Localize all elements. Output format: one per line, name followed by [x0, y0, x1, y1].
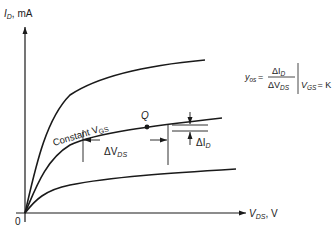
- y-axis-label: ID, mA: [4, 8, 33, 20]
- curve-middle: [25, 118, 222, 213]
- x-axis-label: VDS, V: [249, 208, 278, 220]
- svg-text:ΔID: ΔID: [272, 66, 286, 77]
- svg-text:yos: yos: [244, 72, 257, 83]
- origin-label: 0: [15, 216, 21, 227]
- constant-vgs-label: Constant VGS: [51, 121, 109, 149]
- svg-text:VGS= K: VGS= K: [301, 80, 331, 91]
- delta-id-label: ΔID: [196, 137, 211, 149]
- fet-output-characteristics-diagram: ID, mA VDS, V 0 Constant VGS Q ΔVDS ΔID …: [0, 0, 334, 231]
- curve-bottom: [25, 169, 236, 213]
- q-point: [145, 125, 150, 130]
- output-admittance-formula: yos = ΔID ΔVDS VGS= K: [244, 63, 331, 94]
- svg-text:ΔVDS: ΔVDS: [268, 80, 290, 91]
- svg-text:=: =: [258, 72, 263, 82]
- delta-vds-label: ΔVDS: [104, 146, 127, 158]
- q-point-label: Q: [141, 110, 149, 121]
